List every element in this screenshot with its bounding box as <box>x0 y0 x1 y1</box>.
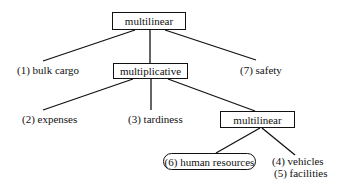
safety-label: (7) safety <box>240 64 282 76</box>
bulk-cargo-label: (1) bulk cargo <box>17 64 79 76</box>
multiplicative-node: multiplicative <box>113 63 188 79</box>
edge-multiplicative-expenses <box>43 79 133 110</box>
edge-multiplicative-sub-multilinear <box>168 79 255 111</box>
sub-multilinear-node: multilinear <box>220 111 295 128</box>
edge-sub-multilinear-human-resources <box>216 128 260 153</box>
facilities-label: (5) facilities <box>274 167 327 179</box>
edge-root-safety <box>165 30 256 60</box>
expenses-label: (2) expenses <box>22 113 77 125</box>
vehicles-label: (4) vehicles <box>272 155 324 167</box>
edge-root-bulk-cargo <box>43 30 135 61</box>
edge-sub-multilinear-vehicles <box>262 128 295 155</box>
tardiness-label: (3) tardiness <box>128 113 183 125</box>
root-multilinear-node: multilinear <box>112 12 186 30</box>
human-resources-node: (6) human resources <box>163 153 256 170</box>
